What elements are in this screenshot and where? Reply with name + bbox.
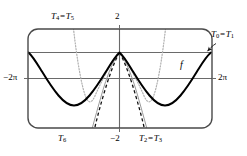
label-T0-equals-T1: T0=T1 bbox=[211, 30, 234, 40]
label-T1-sub: 1 bbox=[231, 32, 234, 39]
axis-label-bottom-neg-2: −2 bbox=[110, 134, 120, 143]
label-T4-equals-T5: T4=T5 bbox=[51, 12, 74, 22]
axis-label-left-neg-2pi: −2π bbox=[3, 73, 17, 82]
label-T6: T6 bbox=[58, 134, 66, 144]
curve-label-f: f bbox=[180, 60, 183, 70]
label-T5-sub: 5 bbox=[71, 14, 74, 21]
taylor-polynomial-figure: T4=T5 2 T0=T1 f −2π 2π T6 −2 T2=T3 bbox=[0, 0, 247, 156]
axis-label-right-2pi: 2π bbox=[218, 73, 227, 82]
label-T3-sub: 3 bbox=[159, 136, 162, 143]
label-T6-sub: 6 bbox=[63, 136, 66, 143]
figure-canvas bbox=[0, 0, 247, 156]
label-T2-equals-T3: T2=T3 bbox=[139, 134, 162, 144]
axis-label-top-2: 2 bbox=[115, 12, 120, 21]
